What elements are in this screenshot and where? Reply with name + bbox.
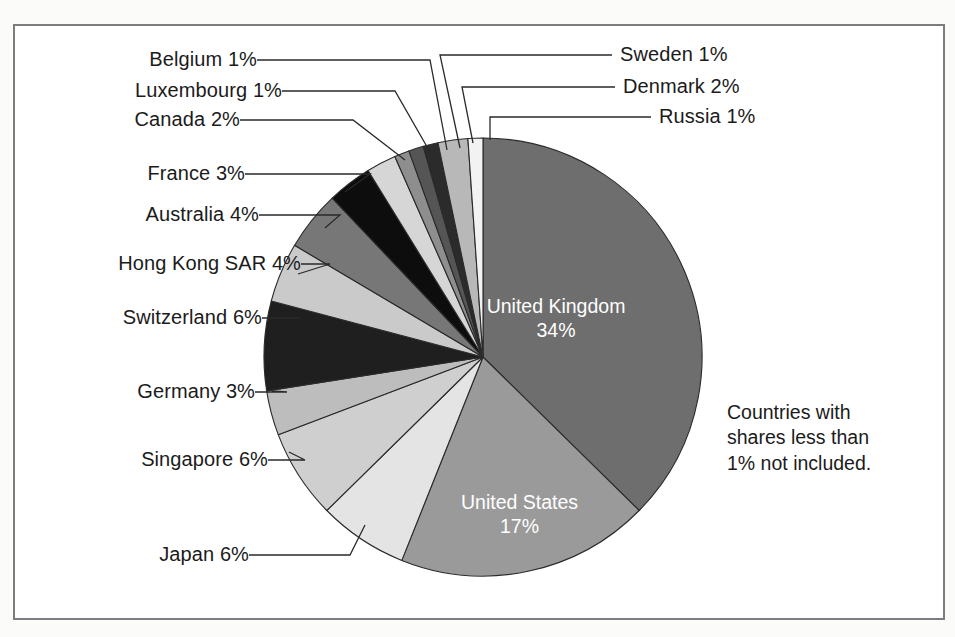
figure-container: Belgium 1% Luxembourg 1% Canada 2% Franc… (0, 0, 955, 637)
slice-label-switzerland: Switzerland 6% (0, 306, 262, 330)
slice-label-belgium: Belgium 1% (0, 48, 257, 72)
leader-line-canada (240, 120, 405, 160)
slice-label-australia: Australia 4% (0, 203, 259, 227)
chart-note-line3: 1% not included. (727, 452, 871, 474)
leader-line-belgium (257, 60, 447, 150)
chart-note-line1: Countries with (727, 401, 851, 423)
chart-note-line2: shares less than (727, 426, 869, 448)
chart-note: Countries withshares less than1% not inc… (727, 400, 871, 476)
slice-inlabel-united-kingdom-value: 34% (466, 318, 646, 342)
slice-label-denmark: Denmark 2% (623, 75, 740, 99)
slice-label-hong-kong-sar: Hong Kong SAR 4% (0, 252, 301, 276)
slice-label-japan: Japan 6% (0, 543, 249, 567)
slice-inlabel-united-states-value: 17% (437, 514, 602, 538)
leader-line-sweden (440, 55, 612, 148)
leader-line-russia (490, 117, 651, 140)
slice-label-russia: Russia 1% (659, 105, 756, 129)
slice-label-germany: Germany 3% (0, 380, 255, 404)
slice-inlabel-united-kingdom-name: United Kingdom (466, 294, 646, 318)
slice-label-canada: Canada 2% (0, 108, 240, 132)
slice-label-singapore: Singapore 6% (0, 448, 268, 472)
leader-line-denmark (462, 87, 615, 143)
slice-inlabel-united-states-name: United States (437, 490, 602, 514)
slice-label-sweden: Sweden 1% (620, 43, 728, 67)
slice-label-luxembourg: Luxembourg 1% (0, 79, 282, 103)
slice-label-france: France 3% (0, 162, 245, 186)
